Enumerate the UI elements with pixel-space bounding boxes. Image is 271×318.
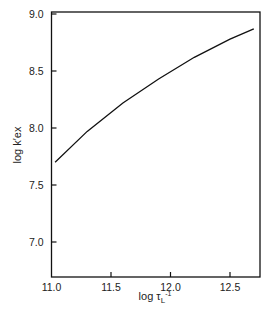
fit-curve [55, 29, 254, 162]
y-tick-label: 7.0 [29, 236, 44, 248]
plot-frame [52, 12, 261, 277]
y-tick-label: 8.5 [29, 65, 44, 77]
x-tick-label: 11.5 [101, 281, 121, 293]
chart: 11.011.512.012.57.07.58.08.59.0 log τL-1… [0, 0, 271, 318]
x-axis-label: log τL-1 [139, 290, 172, 305]
y-axis-label: log k′ex [11, 126, 23, 163]
y-tick-label: 8.0 [29, 122, 44, 134]
y-tick-label: 7.5 [29, 179, 44, 191]
axes: 11.011.512.012.57.07.58.08.59.0 [29, 8, 260, 293]
plot-area [55, 29, 254, 162]
x-tick-label: 11.0 [42, 281, 62, 293]
y-tick-label: 9.0 [29, 8, 44, 20]
x-tick-label: 12.5 [220, 281, 241, 293]
series-filled-circle [55, 29, 254, 162]
